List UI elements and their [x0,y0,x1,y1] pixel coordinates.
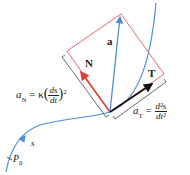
tangent-component-formula: aT = d²sdt² [133,102,167,122]
normal-label: N [85,58,93,69]
start-point-label: P0 [13,154,23,167]
normal-component-formula: aN = κ(dsdt)2 [16,86,67,106]
arc-length-label: s [31,139,35,148]
acceleration-vector [110,17,120,112]
normal-vector [81,72,110,112]
acceleration-label: a [107,36,113,47]
tangent-label: T [148,68,155,79]
